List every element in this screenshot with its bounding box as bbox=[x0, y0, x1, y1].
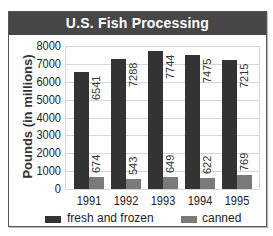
y-tick-label: 5000 bbox=[29, 94, 61, 106]
plot-border bbox=[65, 46, 66, 189]
bar-canned bbox=[89, 177, 104, 189]
y-tick-label: 0 bbox=[29, 183, 61, 195]
value-label-canned: 649 bbox=[164, 155, 176, 173]
value-label-canned: 769 bbox=[238, 153, 250, 171]
y-tick-label: 2000 bbox=[29, 147, 61, 159]
bar-fresh-frozen bbox=[74, 72, 89, 189]
value-label-canned: 674 bbox=[90, 155, 102, 173]
y-tick-label: 3000 bbox=[29, 129, 61, 141]
legend-swatch-canned bbox=[181, 216, 197, 223]
x-tick-label: 1991 bbox=[72, 193, 106, 208]
gridline bbox=[65, 189, 259, 190]
legend-label-canned: canned bbox=[202, 211, 241, 225]
x-tick-label: 1993 bbox=[146, 193, 180, 208]
value-label-fresh-frozen: 7288 bbox=[127, 62, 139, 86]
bar-canned bbox=[126, 179, 141, 189]
y-tick-label: 8000 bbox=[29, 40, 61, 52]
y-tick-label: 1000 bbox=[29, 165, 61, 177]
legend: fresh and frozen canned bbox=[9, 211, 266, 227]
bar-fresh-frozen bbox=[185, 55, 200, 189]
chart-frame: U.S. Fish Processing Pounds (in millions… bbox=[8, 11, 267, 227]
value-label-fresh-frozen: 7475 bbox=[201, 59, 213, 83]
x-tick-label: 1995 bbox=[220, 193, 254, 208]
y-tick-label: 4000 bbox=[29, 112, 61, 124]
bar-fresh-frozen bbox=[222, 60, 237, 189]
bar-fresh-frozen bbox=[111, 59, 126, 189]
value-label-fresh-frozen: 6541 bbox=[90, 76, 102, 100]
value-label-canned: 622 bbox=[201, 156, 213, 174]
y-tick-label: 6000 bbox=[29, 76, 61, 88]
value-label-fresh-frozen: 7744 bbox=[164, 54, 176, 78]
value-label-canned: 543 bbox=[127, 157, 139, 175]
legend-swatch-fresh-frozen bbox=[45, 216, 61, 223]
x-tick-label: 1992 bbox=[109, 193, 143, 208]
value-label-fresh-frozen: 7215 bbox=[238, 64, 250, 88]
bar-fresh-frozen bbox=[148, 51, 163, 189]
chart-title: U.S. Fish Processing bbox=[9, 12, 266, 35]
bar-canned bbox=[237, 175, 252, 189]
legend-label-fresh-frozen: fresh and frozen bbox=[67, 211, 154, 225]
bar-canned bbox=[163, 177, 178, 189]
plot-border bbox=[259, 46, 260, 189]
bar-canned bbox=[200, 178, 215, 189]
x-tick-label: 1994 bbox=[183, 193, 217, 208]
plot-area: 65416747288543774464974756227215769 bbox=[65, 46, 259, 189]
y-tick-label: 7000 bbox=[29, 58, 61, 70]
gridline bbox=[65, 46, 259, 47]
